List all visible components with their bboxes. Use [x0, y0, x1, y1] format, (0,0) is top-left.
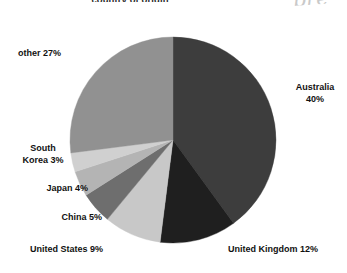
slice-label-china: China 5% [40, 212, 102, 224]
pie-chart-figure: country of origin pre Australia 40% Unit… [0, 0, 347, 273]
slice-label-other: other 27% [18, 48, 104, 60]
slice-label-united-states: United States 9% [30, 244, 140, 256]
pie-graphic [0, 0, 347, 273]
slice-label-japan: Japan 4% [18, 183, 88, 195]
slice-label-australia: Australia 40% [287, 82, 343, 105]
slice-label-united-kingdom: United Kingdom 12% [228, 244, 344, 256]
slice-label-south-korea: South Korea 3% [7, 143, 79, 166]
